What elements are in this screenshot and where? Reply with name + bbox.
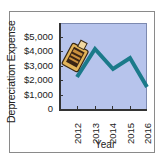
calculator-icon <box>0 0 165 165</box>
